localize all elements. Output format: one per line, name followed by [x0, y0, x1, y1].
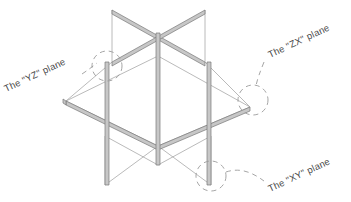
figure-canvas: The "YZ" plane The "ZX" plane The "XY" p…	[0, 0, 351, 202]
xy-front-hidden-left	[105, 136, 158, 165]
orthogonal-planes-diagram: The "YZ" plane The "ZX" plane The "XY" p…	[0, 0, 351, 202]
xy-plane-near-left-bar	[66, 101, 158, 150]
yz-lower-diagonal	[105, 146, 158, 185]
callout-leader-yz	[82, 63, 97, 74]
zx-plane-vertical-bar	[207, 62, 211, 185]
yz-plane-vertical-bar	[105, 62, 109, 185]
callout-leader-zx	[256, 62, 264, 86]
zx-far-bottom-edge	[205, 62, 250, 107]
label-zx-plane: The "ZX" plane	[266, 22, 331, 60]
xy-plane-left-wing-bar	[63, 99, 66, 105]
label-yz-plane: The "YZ" plane	[2, 56, 67, 94]
plane-edge-bars-group	[63, 10, 250, 185]
xy-plane-near-right-bar	[158, 107, 250, 150]
zx-lower-diagonal	[158, 146, 211, 185]
xy-front-hidden-right	[158, 136, 211, 165]
callout-labels-group: The "YZ" plane The "ZX" plane The "XY" p…	[2, 22, 331, 194]
label-xy-plane: The "XY" plane	[266, 155, 331, 193]
callout-circles-group	[92, 51, 268, 191]
callout-leader-xy	[226, 170, 264, 181]
origin-vertical-bar	[156, 33, 160, 165]
